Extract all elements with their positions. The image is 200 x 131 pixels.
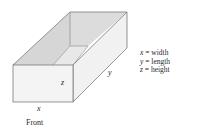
legend-row-z: z = height bbox=[140, 66, 170, 75]
box-diagram: z y x Front x = width y = length z = hei… bbox=[0, 0, 200, 131]
edge-label-x: x bbox=[37, 104, 41, 113]
variable-legend: x = width y = length z = height bbox=[140, 49, 170, 75]
front-label: Front bbox=[26, 118, 43, 127]
edge-label-y: y bbox=[108, 68, 112, 77]
edge-label-z: z bbox=[61, 78, 64, 87]
